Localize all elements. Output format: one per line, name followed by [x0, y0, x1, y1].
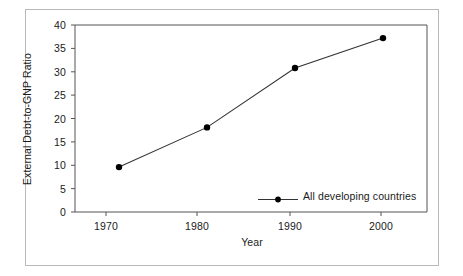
- y-tick-label-20: 20: [44, 113, 66, 125]
- x-tick-label-2000: 2000: [369, 220, 393, 232]
- x-axis-title: Year: [241, 236, 263, 248]
- data-point-marker: [380, 35, 386, 41]
- y-tick-label-35: 35: [44, 42, 66, 54]
- chart-legend: All developing countries: [256, 189, 418, 203]
- y-tick-label-25: 25: [44, 89, 66, 101]
- x-tick-label-1990: 1990: [278, 220, 302, 232]
- y-axis-ticks: [71, 25, 75, 212]
- y-axis-title: External Debt-to-GNP Ratio: [21, 53, 33, 185]
- series-line: [119, 38, 383, 167]
- data-point-marker: [292, 65, 298, 71]
- plot-frame: [75, 25, 427, 212]
- y-tick-label-0: 0: [44, 206, 66, 218]
- y-tick-label-15: 15: [44, 136, 66, 148]
- series-all-developing-countries: [116, 35, 386, 170]
- y-tick-label-30: 30: [44, 66, 66, 78]
- y-tick-label-5: 5: [44, 183, 66, 195]
- chart-figure: 0 5 10 15 20 25 30 35 40 1970 1980 1990 …: [0, 0, 463, 276]
- legend-entry-label: All developing countries: [303, 190, 416, 202]
- y-tick-label-40: 40: [44, 19, 66, 31]
- data-point-marker: [204, 124, 210, 130]
- legend-marker-icon: [258, 191, 298, 202]
- x-axis-ticks: [106, 212, 381, 216]
- x-tick-label-1980: 1980: [185, 220, 209, 232]
- y-tick-label-10: 10: [44, 159, 66, 171]
- plot-canvas: [0, 0, 463, 276]
- data-point-marker: [116, 164, 122, 170]
- x-tick-label-1970: 1970: [94, 220, 118, 232]
